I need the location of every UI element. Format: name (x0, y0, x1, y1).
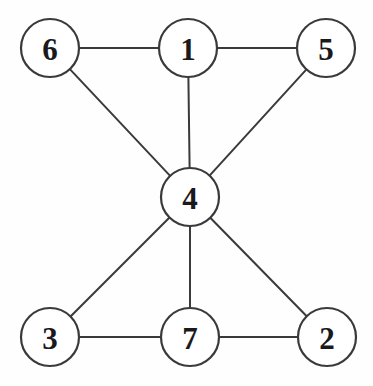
graph-node-4[interactable]: 4 (161, 168, 219, 226)
graph-node-5[interactable]: 5 (297, 19, 355, 77)
graph-edge-4-3 (71, 218, 170, 317)
graph-node-2[interactable]: 2 (298, 308, 356, 366)
graph-node-1[interactable]: 1 (159, 19, 217, 77)
graph-node-label-7: 7 (182, 321, 198, 356)
graph-svg: 6154372 (0, 0, 373, 386)
graph-node-7[interactable]: 7 (161, 308, 219, 366)
graph-node-label-5: 5 (318, 32, 334, 67)
graph-node-label-1: 1 (180, 32, 196, 67)
graph-node-label-2: 2 (319, 321, 335, 356)
graph-node-3[interactable]: 3 (21, 308, 79, 366)
graph-edge-5-4 (210, 69, 307, 175)
graph-node-6[interactable]: 6 (21, 19, 79, 77)
graph-edge-6-4 (70, 69, 170, 176)
graph-node-label-3: 3 (42, 321, 58, 356)
graph-edge-4-2 (210, 218, 306, 317)
graph-node-label-4: 4 (182, 181, 198, 216)
graph-edge-1-4 (188, 77, 189, 168)
graph-diagram-canvas: 6154372 (0, 0, 373, 386)
graph-node-label-6: 6 (42, 32, 58, 67)
